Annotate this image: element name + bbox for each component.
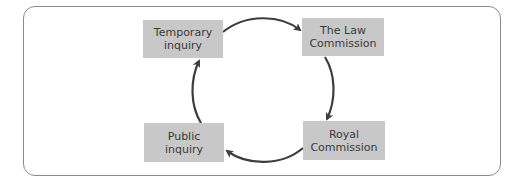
cycle-arrows bbox=[0, 0, 520, 182]
node-temporary-inquiry: Temporary inquiry bbox=[143, 20, 223, 58]
node-label-line-1: Public bbox=[168, 130, 201, 143]
node-label-line-2: inquiry bbox=[164, 39, 202, 52]
node-label-line-2: inquiry bbox=[165, 143, 203, 156]
node-label-line-1: The Law bbox=[320, 24, 366, 37]
arrow-temporary-to-law bbox=[223, 18, 300, 32]
arrow-law-to-royal bbox=[325, 57, 334, 119]
node-public-inquiry: Public inquiry bbox=[144, 123, 224, 162]
node-label-line-1: Royal bbox=[329, 128, 359, 141]
node-law-commission: The Law Commission bbox=[302, 18, 384, 56]
node-royal-commission: Royal Commission bbox=[303, 121, 385, 160]
arrow-royal-to-public bbox=[227, 148, 303, 162]
arrow-public-to-temporary bbox=[192, 61, 201, 123]
node-label-line-2: Commission bbox=[309, 37, 376, 50]
node-label-line-1: Temporary bbox=[154, 26, 212, 39]
node-label-line-2: Commission bbox=[310, 141, 377, 154]
